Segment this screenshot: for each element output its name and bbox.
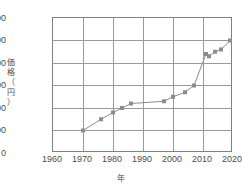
y-tick-label: 400 [0, 59, 6, 68]
data-point-marker [207, 54, 211, 58]
y-tick-label: 100 [0, 126, 6, 135]
plot-area [52, 17, 232, 152]
data-point-marker [213, 50, 217, 54]
data-point-marker [120, 106, 124, 110]
data-point-marker [99, 117, 103, 121]
y-tick-label: 600 [0, 14, 6, 23]
data-point-marker [219, 48, 223, 52]
y-tick-label: 0 [0, 149, 6, 158]
y-tick-label: 200 [0, 104, 6, 113]
data-point-marker [129, 102, 133, 106]
y-tick-label: 300 [0, 81, 6, 90]
y-axis-title-char: 格 [4, 68, 18, 78]
y-axis-title-char: ） [4, 98, 18, 108]
line-chart: 価 格 （ 円 ） 600 500 400 300 200 100 0 1960… [0, 0, 242, 186]
y-axis-title-char: 価 [4, 58, 18, 68]
data-point-marker [192, 84, 196, 88]
data-point-marker [183, 90, 187, 94]
data-point-marker [111, 111, 115, 115]
data-series-line [53, 18, 233, 153]
data-point-marker [81, 129, 85, 133]
data-point-marker [162, 99, 166, 103]
x-axis-title: 年 [0, 172, 242, 183]
y-axis-title: 価 格 （ 円 ） [4, 58, 18, 108]
data-point-marker [171, 95, 175, 99]
y-axis-title-char: 円 [4, 88, 18, 98]
x-tick-label: 2020 [212, 155, 242, 164]
data-point-marker [228, 39, 232, 43]
y-tick-label: 500 [0, 36, 6, 45]
y-axis-title-char: （ [4, 78, 18, 88]
